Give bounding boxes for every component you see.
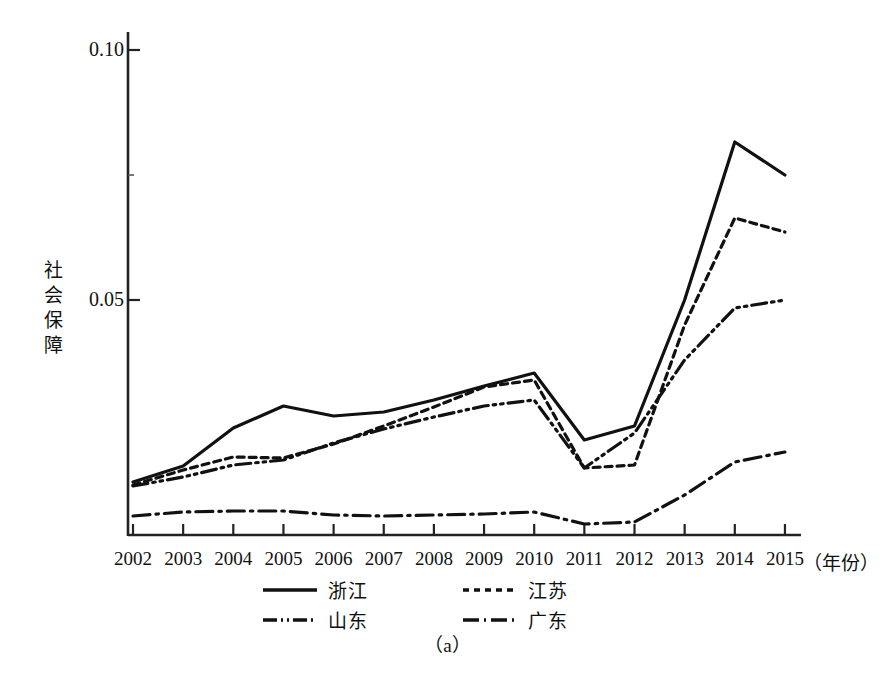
x-tick-label-2004: 2004 [207,548,259,570]
x-tick-label-2002: 2002 [107,548,159,570]
x-tick-label-2006: 2006 [308,548,360,570]
series-line-jiangsu [133,218,785,485]
legend-item-jiangsu[interactable]: 江苏 [462,576,662,603]
x-tick-label-2010: 2010 [508,548,560,570]
x-tick-label-2003: 2003 [157,548,209,570]
legend-swatch-solid [262,583,318,597]
series-line-zhejiang [133,142,785,482]
legend-item-zhejiang[interactable]: 浙江 [262,576,462,603]
legend-label-jiangsu: 江苏 [528,576,568,603]
x-tick-label-2011: 2011 [558,548,610,570]
legend-label-shandong: 山东 [328,606,368,633]
x-tick-label-2013: 2013 [659,548,711,570]
x-axis-title: （年份） [803,548,879,575]
legend-swatch-dash-dot [462,613,518,627]
x-tick-label-2012: 2012 [609,548,661,570]
x-tick-label-2007: 2007 [358,548,410,570]
legend-row-2: 山东 广东 [262,606,662,633]
x-tick-label-2005: 2005 [257,548,309,570]
figure-container: 社 会 保 障 0.10 0.05 2002200320042005200620… [0,0,895,678]
legend-swatch-dotted [462,583,518,597]
figure-caption: （a） [0,630,895,657]
legend: 浙江 江苏 山东 广东 [262,576,662,634]
legend-row-1: 浙江 江苏 [262,576,662,603]
x-tick-label-2009: 2009 [458,548,510,570]
legend-item-shandong[interactable]: 山东 [262,606,462,633]
legend-swatch-dash-dot-dot [262,613,318,627]
series-line-guangdong [133,452,785,524]
legend-label-zhejiang: 浙江 [328,576,368,603]
x-tick-label-2008: 2008 [408,548,460,570]
legend-item-guangdong[interactable]: 广东 [462,606,662,633]
legend-label-guangdong: 广东 [528,606,568,633]
x-tick-label-2014: 2014 [709,548,761,570]
